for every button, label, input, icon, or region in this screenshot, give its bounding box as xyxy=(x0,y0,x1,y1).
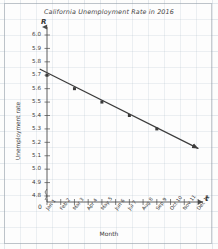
data-point-marker xyxy=(73,87,76,90)
data-point-markers xyxy=(46,74,159,131)
data-point-marker xyxy=(128,114,131,117)
data-point-marker xyxy=(46,74,49,77)
trend-line xyxy=(40,69,198,148)
chart-page: California Unemployment Rate in 2016 R t… xyxy=(0,0,218,249)
data-series-line xyxy=(40,69,198,148)
data-point-marker xyxy=(100,101,103,104)
data-point-marker xyxy=(155,127,158,130)
chart-plot-area xyxy=(0,0,218,249)
